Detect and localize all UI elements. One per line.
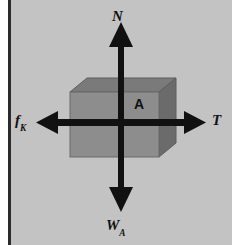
force-arrows (36, 22, 206, 212)
arrow-friction-shaft (50, 119, 124, 126)
label-block-name: A (134, 97, 144, 111)
arrow-weight-head (109, 187, 133, 212)
label-normal-force: N (112, 9, 123, 24)
label-friction-subscript: K (20, 123, 26, 133)
arrow-friction-head (36, 111, 58, 134)
block-side-face (159, 78, 176, 157)
free-body-diagram-figure: N WA fK T A (0, 0, 232, 245)
arrow-normal-head (109, 22, 133, 47)
arrow-tension-head (184, 111, 206, 134)
label-normal-symbol: N (112, 8, 123, 24)
label-weight-subscript: A (119, 228, 125, 238)
arrow-tension-shaft (118, 119, 190, 126)
diagram-canvas (0, 0, 232, 245)
label-weight-force: WA (106, 218, 126, 236)
label-weight-symbol: W (106, 217, 119, 233)
label-tension-force: T (212, 113, 221, 128)
label-friction-force: fK (15, 113, 26, 131)
arrow-normal-shaft (118, 36, 124, 124)
label-tension-symbol: T (212, 112, 221, 128)
arrow-weight-shaft (118, 122, 124, 198)
